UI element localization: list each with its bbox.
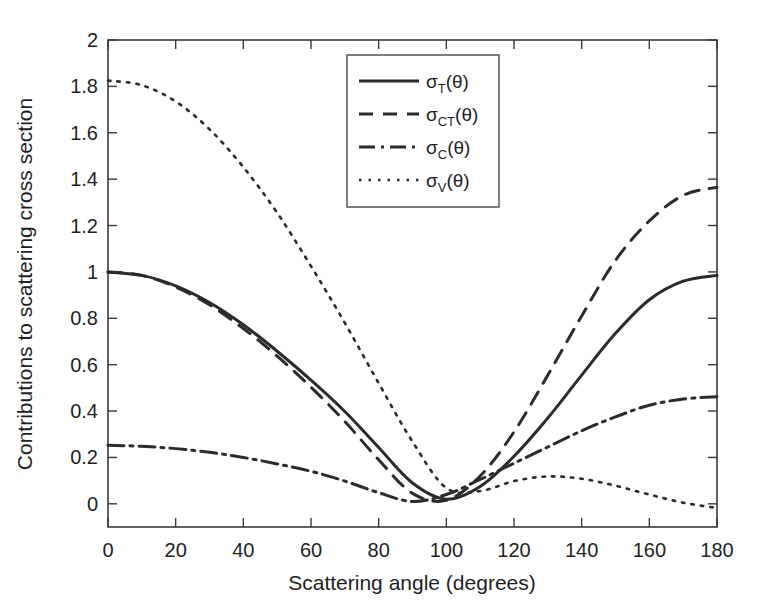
x-tick-label: 180 xyxy=(700,539,733,561)
chart-legend[interactable]: σT(θ)σCT(θ)σC(θ)σV(θ) xyxy=(347,55,499,207)
y-axis-title: Contributions to scattering cross sectio… xyxy=(13,98,36,470)
x-tick-label: 100 xyxy=(430,539,463,561)
x-tick-label: 0 xyxy=(102,539,113,561)
y-tick-label: 2 xyxy=(87,29,98,51)
scattering-cross-section-chart: 00.20.40.60.811.21.41.61.82 020406080100… xyxy=(0,0,770,608)
y-tick-label: 1.2 xyxy=(70,215,98,237)
x-tick-label: 40 xyxy=(232,539,254,561)
x-axis-title: Scattering angle (degrees) xyxy=(288,571,535,594)
y-tick-label: 0.4 xyxy=(70,400,98,422)
x-tick-label: 60 xyxy=(300,539,322,561)
x-tick-label: 160 xyxy=(633,539,666,561)
legend-subscript: C xyxy=(438,147,447,162)
legend-sigma-glyph: σ xyxy=(426,170,438,191)
y-tick-label: 1 xyxy=(87,261,98,283)
x-tick-label: 120 xyxy=(497,539,530,561)
legend-subscript: CT xyxy=(438,114,455,129)
legend-argument: (θ) xyxy=(446,170,469,191)
x-tick-label: 20 xyxy=(165,539,187,561)
legend-sigma-glyph: σ xyxy=(426,71,438,92)
y-tick-label: 1.8 xyxy=(70,75,98,97)
y-tick-label: 0 xyxy=(87,493,98,515)
y-tick-label: 1.4 xyxy=(70,168,98,190)
legend-argument: (θ) xyxy=(447,137,470,158)
figure-container: 00.20.40.60.811.21.41.61.82 020406080100… xyxy=(0,0,770,608)
legend-subscript: T xyxy=(438,81,446,96)
x-tick-label: 140 xyxy=(565,539,598,561)
y-tick-label: 1.6 xyxy=(70,122,98,144)
legend-sigma-glyph: σ xyxy=(426,104,438,125)
legend-subscript: V xyxy=(438,180,447,195)
x-tick-label: 80 xyxy=(368,539,390,561)
legend-argument: (θ) xyxy=(446,71,469,92)
legend-argument: (θ) xyxy=(455,104,478,125)
legend-sigma-glyph: σ xyxy=(426,137,438,158)
y-tick-label: 0.2 xyxy=(70,446,98,468)
y-tick-label: 0.6 xyxy=(70,354,98,376)
y-tick-label: 0.8 xyxy=(70,307,98,329)
legend-box xyxy=(347,55,499,207)
